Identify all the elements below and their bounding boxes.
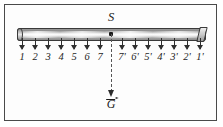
force-arrow-1-prime xyxy=(200,38,201,49)
force-arrow-6 xyxy=(87,38,88,49)
force-arrow-5-prime xyxy=(148,38,149,49)
position-label-7-prime: 7' xyxy=(118,52,126,63)
weight-arrowhead-icon xyxy=(108,90,114,97)
force-arrow-2 xyxy=(35,38,36,49)
position-label-1: 1 xyxy=(19,52,24,63)
force-arrow-5 xyxy=(74,38,75,49)
position-label-2-prime: 2' xyxy=(183,52,191,63)
force-arrow-4 xyxy=(61,38,62,49)
force-arrow-3 xyxy=(48,38,49,49)
position-label-3-prime: 3' xyxy=(170,52,178,63)
weight-dashed-line xyxy=(111,34,112,92)
weight-label-g: G xyxy=(107,98,116,110)
force-arrow-4-prime xyxy=(161,38,162,49)
force-arrow-2-prime xyxy=(187,38,188,49)
force-arrow-1 xyxy=(22,38,23,49)
force-arrow-7-prime xyxy=(122,38,123,49)
force-arrow-7 xyxy=(100,38,101,49)
position-label-5-prime: 5' xyxy=(144,52,152,63)
position-label-1-prime: 1' xyxy=(196,52,204,63)
position-label-6: 6 xyxy=(84,52,89,63)
beam-diagram-figure: 12345677'6'5'4'3'2'1' S G xyxy=(0,0,223,127)
position-label-5: 5 xyxy=(71,52,76,63)
position-label-4: 4 xyxy=(58,52,63,63)
position-label-3: 3 xyxy=(45,52,50,63)
force-arrow-6-prime xyxy=(135,38,136,49)
pivot-label-s: S xyxy=(108,11,114,24)
force-arrow-3-prime xyxy=(174,38,175,49)
position-label-4-prime: 4' xyxy=(157,52,165,63)
position-label-2: 2 xyxy=(32,52,37,63)
position-label-6-prime: 6' xyxy=(131,52,139,63)
position-label-7: 7 xyxy=(97,52,102,63)
